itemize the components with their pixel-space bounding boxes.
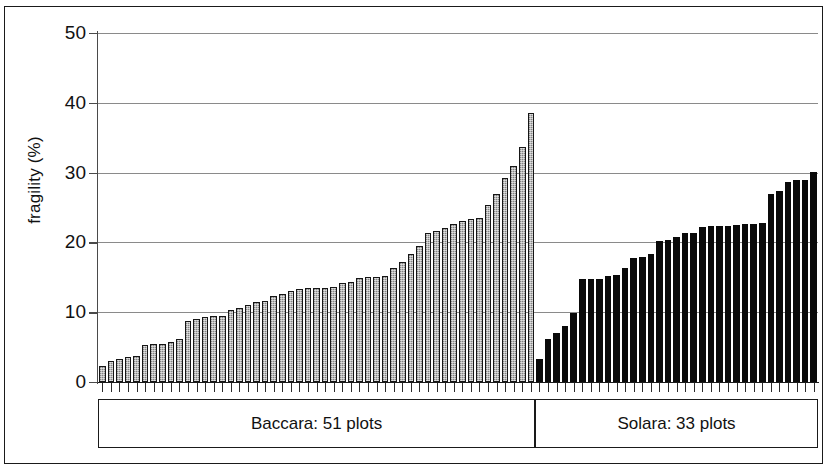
y-axis-tick-mark bbox=[89, 382, 98, 383]
bar-baccara bbox=[528, 113, 535, 382]
x-axis-tick bbox=[325, 383, 326, 392]
bar-solara bbox=[588, 279, 595, 382]
x-axis-tick bbox=[214, 383, 215, 392]
bar-baccara bbox=[219, 316, 226, 382]
bar-baccara bbox=[202, 317, 209, 382]
bar-baccara bbox=[468, 219, 475, 382]
x-axis-tick bbox=[797, 383, 798, 392]
x-axis-tick bbox=[428, 383, 429, 392]
x-axis-tick bbox=[694, 383, 695, 392]
x-axis-tick bbox=[445, 383, 446, 392]
bar-baccara bbox=[485, 205, 492, 382]
bar-baccara bbox=[339, 283, 346, 382]
bar-solara bbox=[750, 224, 757, 382]
x-axis-tick bbox=[402, 383, 403, 392]
bar-solara bbox=[785, 182, 792, 382]
bar-baccara bbox=[253, 302, 260, 382]
bar-solara bbox=[690, 233, 697, 382]
x-axis-tick bbox=[334, 383, 335, 392]
x-axis-tick bbox=[137, 383, 138, 392]
x-axis-tick bbox=[608, 383, 609, 392]
x-axis-tick bbox=[779, 383, 780, 392]
bar-solara bbox=[596, 279, 603, 382]
group-label-solara: Solara: 33 plots bbox=[535, 399, 818, 448]
bar-solara bbox=[545, 339, 552, 382]
x-axis-tick bbox=[668, 383, 669, 392]
x-axis-tick bbox=[522, 383, 523, 392]
bar-baccara bbox=[348, 282, 355, 382]
x-axis-tick bbox=[574, 383, 575, 392]
x-axis-tick bbox=[239, 383, 240, 392]
bar-solara bbox=[725, 226, 732, 382]
bar-baccara bbox=[433, 231, 440, 382]
bar-solara bbox=[562, 326, 569, 382]
bar-baccara bbox=[210, 316, 217, 382]
x-axis-tick bbox=[505, 383, 506, 392]
x-axis-tick bbox=[471, 383, 472, 392]
x-axis-tick bbox=[805, 383, 806, 392]
bar-solara bbox=[553, 333, 560, 382]
bar-solara bbox=[536, 359, 543, 382]
x-axis-tick bbox=[111, 383, 112, 392]
bar-baccara bbox=[185, 321, 192, 382]
bar-baccara bbox=[502, 178, 509, 382]
bar-baccara bbox=[476, 218, 483, 382]
bar-solara bbox=[656, 241, 663, 382]
x-axis-tick bbox=[634, 383, 635, 392]
x-axis-tick bbox=[257, 383, 258, 392]
y-tick-label: 0 bbox=[40, 372, 86, 391]
x-axis-tick bbox=[454, 383, 455, 392]
bar-baccara bbox=[108, 361, 115, 382]
x-axis-tick bbox=[394, 383, 395, 392]
x-axis-tick bbox=[231, 383, 232, 392]
bar-solara bbox=[699, 227, 706, 382]
bar-solara bbox=[776, 191, 783, 382]
x-axis-tick bbox=[479, 383, 480, 392]
x-axis-tick bbox=[128, 383, 129, 392]
bar-baccara bbox=[150, 344, 157, 382]
bar-solara bbox=[613, 275, 620, 382]
x-axis-tick bbox=[754, 383, 755, 392]
x-axis-tick bbox=[539, 383, 540, 392]
x-axis-tick bbox=[197, 383, 198, 392]
bar-baccara bbox=[519, 147, 526, 382]
bar-baccara bbox=[168, 342, 175, 382]
x-axis-tick bbox=[651, 383, 652, 392]
x-axis-tick bbox=[188, 383, 189, 392]
x-axis-tick bbox=[282, 383, 283, 392]
bar-solara bbox=[639, 257, 646, 382]
bar-baccara bbox=[493, 194, 500, 382]
bar-baccara bbox=[510, 166, 517, 382]
bar-baccara bbox=[245, 305, 252, 382]
x-axis-tick bbox=[368, 383, 369, 392]
y-axis-tick-mark bbox=[89, 242, 98, 243]
bar-baccara bbox=[450, 224, 457, 382]
y-axis-tick-mark bbox=[89, 312, 98, 313]
x-axis-tick bbox=[762, 383, 763, 392]
bars-container bbox=[98, 33, 818, 382]
x-axis-tick bbox=[728, 383, 729, 392]
bar-baccara bbox=[356, 278, 363, 382]
x-axis-tick bbox=[514, 383, 515, 392]
bar-baccara bbox=[262, 301, 269, 382]
x-axis-tick bbox=[599, 383, 600, 392]
y-tick-label: 10 bbox=[40, 302, 86, 321]
x-axis-tick bbox=[377, 383, 378, 392]
bar-solara bbox=[570, 313, 577, 382]
x-axis-tick bbox=[659, 383, 660, 392]
x-axis-tick bbox=[557, 383, 558, 392]
x-axis-tick bbox=[154, 383, 155, 392]
bar-baccara bbox=[442, 228, 449, 382]
bar-baccara bbox=[125, 357, 132, 382]
x-axis-tick bbox=[291, 383, 292, 392]
x-axis-tick bbox=[419, 383, 420, 392]
bar-solara bbox=[759, 223, 766, 382]
bar-baccara bbox=[279, 294, 286, 382]
x-axis-tick bbox=[814, 383, 815, 392]
x-axis-tick bbox=[711, 383, 712, 392]
x-axis-tick bbox=[205, 383, 206, 392]
x-axis-tick bbox=[625, 383, 626, 392]
bar-baccara bbox=[399, 262, 406, 382]
x-axis-tick bbox=[248, 383, 249, 392]
x-axis-tick bbox=[591, 383, 592, 392]
